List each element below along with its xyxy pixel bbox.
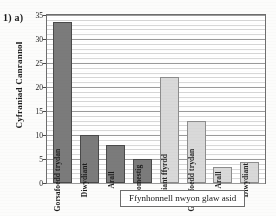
y-axis-tick-label: 10: [36, 131, 44, 140]
bar-category-label: Gorsafoedd trydan: [53, 149, 62, 212]
bar: Diwydiant: [240, 162, 259, 183]
x-axis-title: Ffynhonnell nwyon glaw asid: [120, 190, 245, 207]
y-axis: 05101520253035: [28, 14, 46, 184]
bar: Gorsafoedd trydan: [53, 22, 72, 183]
y-axis-tick-label: 35: [36, 11, 44, 20]
bar-category-label: Arall: [214, 171, 223, 188]
y-axis-tick-label: 20: [36, 83, 44, 92]
plot-area: Gorsafoedd trydanDiwydiantArallDomestigC…: [46, 14, 266, 184]
bar-slot: Cludiant ffyrdd: [159, 15, 179, 183]
bar: Cludiant ffyrdd: [160, 77, 179, 183]
bar-category-label: Diwydiant: [80, 163, 89, 197]
y-axis-tick-label: 25: [36, 59, 44, 68]
bar-slot: Gorsafoedd trydan: [52, 15, 72, 183]
bar-slot: Gorsafoedd trydan: [186, 15, 206, 183]
bar-slot: Domestig: [133, 15, 153, 183]
bar: Domestig: [133, 159, 152, 183]
bar: Diwydiant: [80, 135, 99, 183]
y-axis-title: Cyfraniad Canrannol: [14, 0, 28, 170]
bar-slot: Diwydiant: [79, 15, 99, 183]
bar: Gorsafoedd trydan: [187, 121, 206, 183]
bar-slot: Diwydiant: [240, 15, 260, 183]
bars-container: Gorsafoedd trydanDiwydiantArallDomestigC…: [47, 15, 265, 183]
bar: Arall: [106, 145, 125, 183]
bar-slot: Arall: [213, 15, 233, 183]
bar: Arall: [213, 167, 232, 183]
chart-figure: 1) a) 05101520253035 Cyfraniad Canrannol…: [0, 0, 276, 216]
y-axis-tick-label: 30: [36, 35, 44, 44]
bar-category-label: Arall: [107, 171, 116, 188]
bar-slot: Arall: [106, 15, 126, 183]
y-axis-tick-label: 15: [36, 107, 44, 116]
